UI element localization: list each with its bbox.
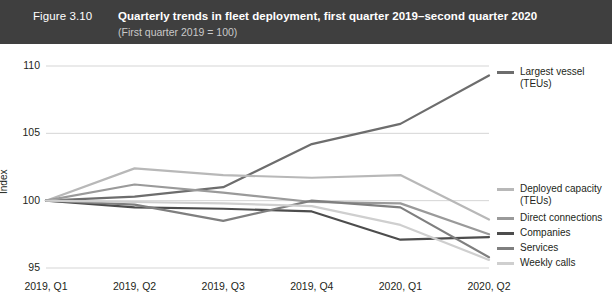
legend-label: Largest vessel (TEUs): [520, 66, 584, 90]
legend-entry-2[interactable]: Direct connections: [497, 212, 602, 224]
legend-label: Direct connections: [520, 212, 602, 224]
figure-container: Figure 3.10 Quarterly trends in fleet de…: [0, 0, 612, 302]
legend-swatch-icon: [497, 188, 514, 191]
legend-swatch-icon: [497, 217, 514, 220]
legend-swatch-icon: [497, 232, 514, 235]
legend-label: Services: [520, 242, 558, 254]
legend-entry-4[interactable]: Services: [497, 242, 558, 254]
figure-subtitle: (First quarter 2019 = 100): [118, 26, 237, 38]
legend-label: Companies: [520, 227, 571, 239]
legend-label: Weekly calls: [520, 257, 575, 269]
legend-swatch-icon: [497, 71, 514, 74]
legend-entry-0[interactable]: Largest vessel (TEUs): [497, 66, 584, 90]
legend-swatch-icon: [497, 247, 514, 250]
series-line-0: [46, 75, 489, 200]
chart-legend: Largest vessel (TEUs)Deployed capacity (…: [497, 44, 612, 302]
legend-label: Deployed capacity (TEUs): [520, 183, 602, 207]
figure-number: Figure 3.10: [33, 10, 92, 22]
legend-swatch-icon: [497, 262, 514, 265]
legend-entry-1[interactable]: Deployed capacity (TEUs): [497, 183, 602, 207]
figure-header-band: Figure 3.10 Quarterly trends in fleet de…: [0, 0, 612, 44]
legend-entry-3[interactable]: Companies: [497, 227, 571, 239]
plot-area: Index 95100105110 2019, Q12019, Q22019, …: [0, 44, 612, 302]
figure-title: Quarterly trends in fleet deployment, fi…: [118, 10, 537, 22]
legend-entry-5[interactable]: Weekly calls: [497, 257, 575, 269]
